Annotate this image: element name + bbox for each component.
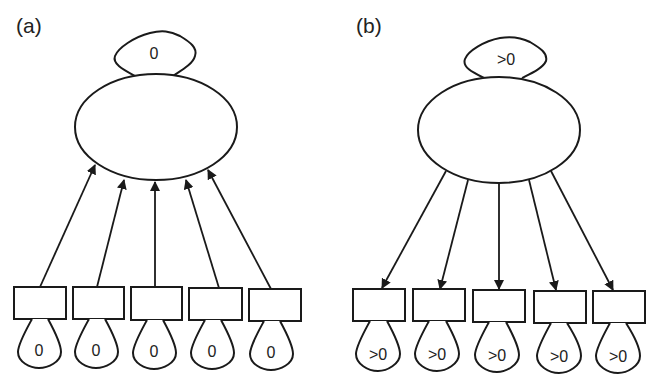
error-variance-label: 0 bbox=[150, 343, 159, 360]
error-variance-label: >0 bbox=[609, 348, 627, 365]
latent-variance-a: 0 bbox=[115, 31, 196, 76]
error-variance-label: >0 bbox=[488, 347, 506, 364]
arrow-b-4 bbox=[529, 180, 556, 290]
diagram-canvas: (a) 0 0 0 0 bbox=[0, 0, 658, 389]
arrow-a-2 bbox=[97, 180, 124, 287]
indicator-box bbox=[73, 287, 124, 319]
indicator-box bbox=[249, 289, 301, 321]
latent-factor-b bbox=[418, 77, 580, 183]
arrows-b bbox=[382, 171, 613, 290]
arrow-b-2 bbox=[440, 180, 468, 289]
error-variance-label: >0 bbox=[550, 348, 568, 365]
indicator-box bbox=[593, 291, 645, 323]
indicator-a-4: 0 bbox=[189, 288, 242, 369]
indicator-box bbox=[353, 289, 405, 321]
arrow-a-1 bbox=[40, 165, 95, 287]
indicator-a-3: 0 bbox=[131, 287, 182, 369]
indicator-b-3: >0 bbox=[473, 290, 525, 372]
panel-a: (a) 0 0 0 0 bbox=[14, 14, 301, 370]
indicator-box bbox=[473, 290, 525, 322]
arrow-a-4 bbox=[186, 180, 219, 288]
indicator-box bbox=[14, 287, 66, 319]
arrows-a bbox=[40, 165, 271, 289]
indicator-box bbox=[413, 289, 465, 321]
indicator-b-2: >0 bbox=[413, 289, 465, 371]
panel-b: (b) >0 >0 >0 >0 bbox=[353, 14, 645, 373]
panel-b-label: (b) bbox=[356, 14, 382, 37]
indicator-b-4: >0 bbox=[534, 291, 586, 373]
indicator-box bbox=[131, 287, 182, 320]
latent-factor-a bbox=[75, 74, 237, 180]
arrow-a-5 bbox=[208, 170, 271, 289]
error-variance-label: 0 bbox=[208, 343, 217, 360]
arrow-b-1 bbox=[382, 171, 446, 288]
indicator-box bbox=[189, 288, 242, 320]
error-variance-label: >0 bbox=[369, 346, 387, 363]
error-variance-label: >0 bbox=[428, 346, 446, 363]
indicator-a-2: 0 bbox=[73, 287, 124, 368]
latent-variance-a-label: 0 bbox=[150, 45, 159, 62]
indicator-a-5: 0 bbox=[249, 289, 301, 370]
indicator-b-5: >0 bbox=[593, 291, 645, 373]
latent-variance-b: >0 bbox=[464, 37, 546, 78]
panel-a-label: (a) bbox=[16, 14, 42, 37]
indicator-box bbox=[534, 291, 586, 323]
error-variance-label: 0 bbox=[92, 342, 101, 359]
error-variance-label: 0 bbox=[35, 342, 44, 359]
indicator-b-1: >0 bbox=[353, 289, 405, 371]
arrow-b-5 bbox=[551, 171, 613, 290]
error-variance-label: 0 bbox=[267, 344, 276, 361]
indicator-a-1: 0 bbox=[14, 287, 66, 368]
latent-variance-b-label: >0 bbox=[497, 51, 515, 68]
